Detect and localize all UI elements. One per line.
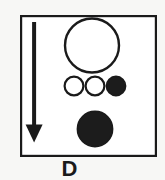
big-open-circle (65, 19, 119, 73)
mid-open-circle-left (65, 77, 84, 96)
panel-label-text: D (62, 157, 78, 180)
panel-label: D (0, 157, 165, 180)
arrow-shaft (32, 22, 36, 128)
diagram-canvas (0, 0, 165, 180)
figure-panel: D (0, 0, 165, 180)
mid-open-circle-center (86, 77, 105, 96)
mid-filled-circle-right (106, 76, 125, 95)
bottom-filled-circle (77, 111, 112, 146)
